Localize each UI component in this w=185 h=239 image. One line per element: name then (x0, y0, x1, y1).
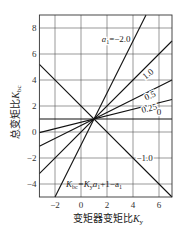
y-tick-label: 8 (32, 23, 37, 33)
x-axis-title: 变矩器变矩比Ky (73, 212, 144, 226)
x-tick-label: 0 (79, 200, 84, 210)
x-tick-labels: −20246 (50, 200, 162, 210)
line-label: a1=−2.0 (102, 34, 131, 45)
series-line (39, 64, 172, 197)
annotations: a1=−2.01.00.50.250−1.0 (102, 34, 162, 162)
formula-label: Kbc=Kya1+1−a1 (65, 179, 122, 190)
x-tick-label: 2 (105, 200, 110, 210)
y-tick-label: 6 (32, 49, 37, 59)
y-tick-label: 0 (32, 127, 37, 137)
y-tick-label: −4 (27, 179, 37, 189)
line-label: 0 (157, 107, 162, 117)
y-tick-label: −2 (27, 153, 37, 163)
line-label: −1.0 (137, 153, 154, 163)
y-tick-labels: −4−202468 (27, 23, 37, 189)
y-axis-title: 总变矩比Kbc (9, 85, 23, 138)
x-tick-label: 6 (157, 200, 162, 210)
chart: −20246 −4−202468 a1=−2.01.00.50.250−1.0 … (0, 0, 185, 239)
y-tick-label: 2 (32, 101, 37, 111)
line-label: 1.0 (140, 66, 155, 81)
x-tick-label: 4 (131, 200, 136, 210)
x-tick-label: −2 (50, 200, 60, 210)
line-label: 0.5 (143, 88, 158, 102)
y-tick-label: 4 (32, 75, 37, 85)
